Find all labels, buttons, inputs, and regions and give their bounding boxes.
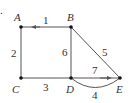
node-label-d: D [65,83,74,95]
node-label-e: E [115,83,123,95]
node-e [118,76,122,80]
edge-label-7: 7 [92,64,98,76]
edge-label-5: 5 [102,46,108,58]
node-d [69,76,73,80]
node-label-a: A [13,11,21,23]
node-a [19,25,23,29]
edge-label-2: 2 [11,47,17,59]
node-c [19,76,23,80]
graph-diagram: . A B C D E 1 2 3 4 5 6 7 [0,0,136,103]
edge-label-6: 6 [62,46,68,58]
node-b [69,25,73,29]
edge-label-4: 4 [92,89,98,101]
edge-label-1: 1 [43,14,49,26]
node-label-b: B [67,11,74,23]
edge-label-3: 3 [43,81,49,93]
problem-marker: . [0,4,3,16]
node-label-c: C [12,83,20,95]
edge-d-e-curved [71,78,120,88]
